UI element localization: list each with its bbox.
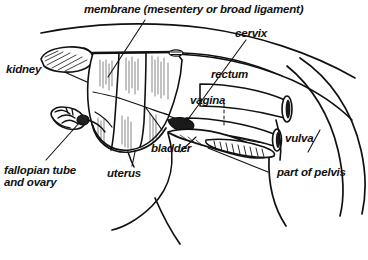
label-fallopian-tube-and-ovary: fallopian tube and ovary [4, 164, 76, 189]
label-kidney: kidney [6, 63, 41, 75]
anatomical-diagram: membrane (mesentery or broad ligament) c… [0, 0, 368, 260]
label-membrane: membrane (mesentery or broad ligament) [84, 3, 303, 15]
hind-limb-outline-inner [155, 198, 180, 244]
label-bladder: bladder [151, 142, 191, 154]
leader-uterus [132, 152, 135, 166]
membrane-attachment-band [93, 52, 176, 53]
rectum-terminal [282, 96, 292, 122]
leader-cervix [186, 40, 246, 122]
diagram-artwork [0, 0, 368, 260]
label-uterus: uterus [107, 167, 141, 179]
label-vagina: vagina [190, 94, 225, 106]
label-cervix: cervix [235, 27, 267, 39]
label-part-of-pelvis: part of pelvis [277, 166, 346, 178]
label-rectum: rectum [211, 68, 248, 80]
label-vulva: vulva [285, 132, 313, 144]
suspensory-structure [169, 50, 183, 56]
